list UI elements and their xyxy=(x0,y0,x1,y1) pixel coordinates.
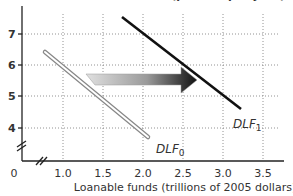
loanable-funds-chart: Real interest rate (percent per year) 7 … xyxy=(0,0,293,196)
axes xyxy=(17,6,284,165)
svg-text:4: 4 xyxy=(8,122,16,135)
svg-text:2.5: 2.5 xyxy=(174,167,192,180)
y-tick-labels: 7 6 5 4 xyxy=(8,28,16,135)
svg-text:5: 5 xyxy=(8,90,16,103)
svg-text:3.5: 3.5 xyxy=(254,167,272,180)
svg-text:1.0: 1.0 xyxy=(54,167,72,180)
dlf0-label: DLF0 xyxy=(156,142,185,158)
x-tick-labels: 0 1.0 1.5 2.0 2.5 3.0 3.5 xyxy=(11,167,272,180)
svg-text:2.0: 2.0 xyxy=(134,167,152,180)
gridlines xyxy=(22,14,280,161)
svg-text:7: 7 xyxy=(8,28,16,41)
x-axis-title: Loanable funds (trillions of 2005 dollar… xyxy=(74,181,293,194)
svg-text:0: 0 xyxy=(11,167,18,180)
svg-text:1.5: 1.5 xyxy=(94,167,112,180)
y-axis-title: Real interest rate (percent per year) xyxy=(58,0,285,2)
svg-text:6: 6 xyxy=(8,59,16,72)
dlf1-label: DLF1 xyxy=(233,117,262,133)
dlf0-curve xyxy=(45,52,148,137)
svg-text:3.0: 3.0 xyxy=(214,167,232,180)
